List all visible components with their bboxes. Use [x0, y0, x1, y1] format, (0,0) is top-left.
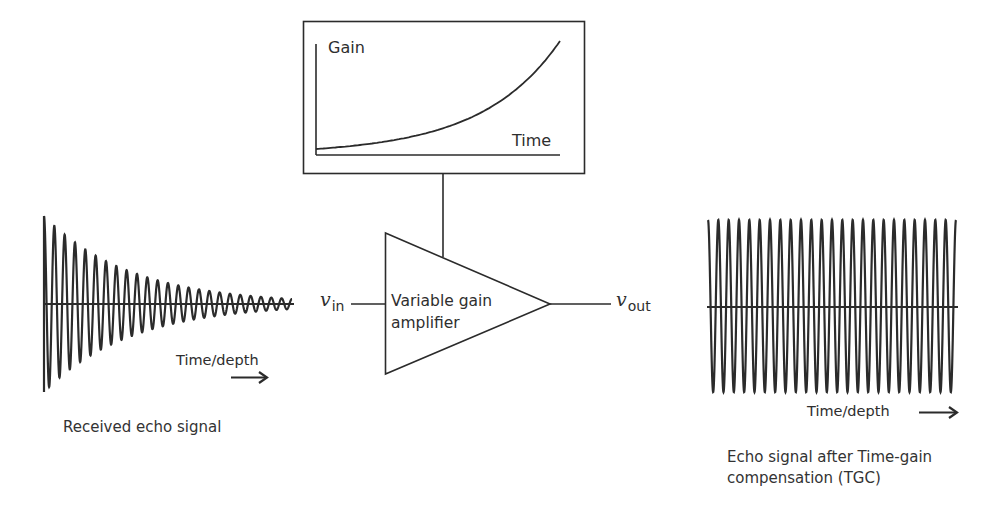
compensated-echo-caption: Echo signal after Time-gain compensation… [727, 447, 932, 489]
right-arrow-icon [919, 407, 957, 418]
compensated-echo-waveform [707, 220, 958, 392]
input-symbol: v [320, 288, 331, 310]
compensated-time-depth-label: Time/depth [807, 404, 890, 419]
input-voltage-label: vin [320, 290, 345, 309]
gain-axis-label: Gain [328, 40, 365, 56]
time-axis-label: Time [512, 133, 551, 149]
input-subscript: in [332, 298, 345, 314]
amplifier-label: Variable gain amplifier [391, 290, 492, 334]
amplifier-label-line2: amplifier [391, 312, 492, 334]
compensated-caption-line1: Echo signal after Time-gain [727, 447, 932, 468]
tgc-diagram [0, 0, 998, 522]
amplifier-label-line1: Variable gain [391, 290, 492, 312]
right-arrow-icon [231, 372, 267, 383]
output-subscript: out [628, 298, 651, 314]
output-voltage-label: vout [616, 290, 651, 309]
output-symbol: v [616, 288, 627, 310]
received-echo-caption: Received echo signal [63, 417, 221, 438]
compensated-caption-line2: compensation (TGC) [727, 468, 932, 489]
received-time-depth-label: Time/depth [176, 353, 259, 368]
